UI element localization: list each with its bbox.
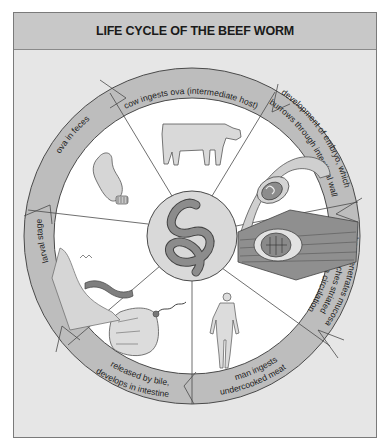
life-cycle-diagram: cow ingests ova (intermediate host) deve…	[0, 0, 384, 447]
center-adult-worm	[147, 191, 237, 281]
